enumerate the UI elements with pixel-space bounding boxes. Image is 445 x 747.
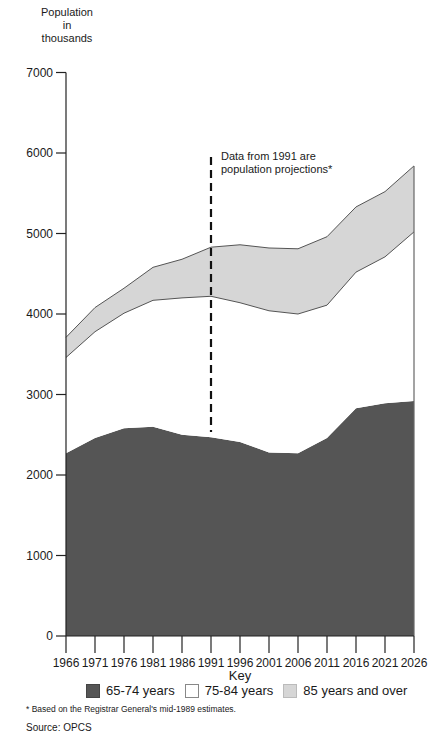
source-note: Source: OPCS <box>26 722 92 733</box>
annotation-line2: population projections* <box>221 163 333 175</box>
legend-swatch-dark <box>86 684 100 698</box>
chart-areas <box>66 166 414 636</box>
x-tick-label: 2006 <box>285 656 312 668</box>
legend-item-85-plus: 85 years and over <box>283 683 407 698</box>
legend-item-75-84: 75-84 years <box>185 683 274 698</box>
y-tick-label: 3000 <box>26 388 53 402</box>
x-tick-label: 2011 <box>314 656 340 668</box>
x-tick-label: 2016 <box>343 656 370 668</box>
x-tick-label: 1981 <box>140 656 167 668</box>
x-tick-label: 2021 <box>372 656 399 668</box>
y-tick-label: 0 <box>46 629 53 643</box>
legend: 65-74 years 75-84 years 85 years and ove… <box>86 683 417 698</box>
y-tick-label: 6000 <box>26 146 53 160</box>
y-tick-label: 2000 <box>26 468 53 482</box>
annotation-line1: Data from 1991 are <box>221 150 316 162</box>
legend-label-65-74: 65-74 years <box>106 683 175 698</box>
y-tick-label: 4000 <box>26 307 53 321</box>
legend-label-85-plus: 85 years and over <box>303 683 407 698</box>
area-chart: 0100020003000400050006000700019661971197… <box>0 0 445 668</box>
x-tick-label: 2001 <box>256 656 283 668</box>
y-tick-label: 5000 <box>26 227 53 241</box>
x-tick-label: 1996 <box>227 656 254 668</box>
legend-item-65-74: 65-74 years <box>86 683 175 698</box>
legend-swatch-light <box>283 684 297 698</box>
x-tick-label: 2026 <box>401 656 428 668</box>
legend-title: Key <box>0 668 445 683</box>
footnote: * Based on the Registrar General's mid-1… <box>26 704 236 714</box>
x-tick-label: 1971 <box>82 656 109 668</box>
y-tick-label: 1000 <box>26 549 53 563</box>
x-tick-label: 1966 <box>53 656 80 668</box>
x-tick-label: 1976 <box>111 656 138 668</box>
x-tick-label: 1986 <box>169 656 196 668</box>
y-tick-label: 7000 <box>26 66 53 80</box>
legend-label-75-84: 75-84 years <box>205 683 274 698</box>
legend-swatch-white <box>185 684 199 698</box>
x-tick-label: 1991 <box>198 656 225 668</box>
